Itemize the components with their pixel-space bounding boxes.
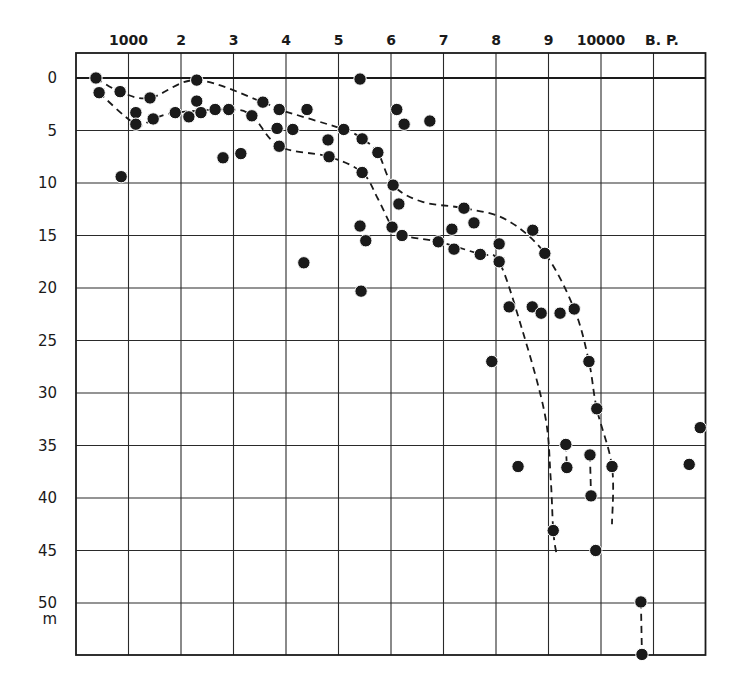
data-point-marker [183, 111, 195, 123]
y-tick-label: 10 [38, 174, 57, 192]
data-point-marker [93, 87, 105, 99]
data-point-marker [636, 648, 648, 660]
data-point-marker [246, 110, 258, 122]
data-point-marker [458, 202, 470, 214]
depth-age-chart: 10002345678910000 B. P. 0510152025303540… [0, 0, 733, 677]
data-point-marker [147, 113, 159, 125]
data-point-marker [391, 103, 403, 115]
y-axis-tick-labels: 05101520253035404550 [38, 69, 57, 612]
data-point-marker [446, 223, 458, 235]
connector-3-curve [641, 602, 642, 655]
x-tick-label: 7 [439, 32, 449, 48]
data-point-marker [354, 73, 366, 85]
data-point-marker [554, 307, 566, 319]
data-point-marker [257, 96, 269, 108]
y-tick-label: 5 [47, 122, 57, 140]
data-point-marker [386, 221, 398, 233]
y-tick-label: 20 [38, 279, 57, 297]
data-point-marker [568, 303, 580, 315]
data-point-marker [560, 438, 572, 450]
data-point-marker [547, 524, 559, 536]
data-point-marker [512, 460, 524, 472]
data-point-marker [273, 103, 285, 115]
dashed-curves [96, 78, 642, 654]
data-point-marker [273, 140, 285, 152]
x-tick-label: 9 [544, 32, 554, 48]
data-point-marker [169, 106, 181, 118]
data-point-marker [195, 106, 207, 118]
y-tick-label: 35 [38, 437, 57, 455]
data-point-marker [493, 256, 505, 268]
data-point-marker [287, 123, 299, 135]
y-tick-label: 0 [47, 69, 57, 87]
y-tick-label: 30 [38, 384, 57, 402]
vertical-gridlines [129, 53, 654, 655]
data-point-marker [424, 115, 436, 127]
data-point-marker [590, 544, 602, 556]
y-tick-label: 40 [38, 489, 57, 507]
data-point-marker [322, 134, 334, 146]
x-tick-label: 1000 [109, 32, 148, 48]
data-point-marker [468, 217, 480, 229]
x-axis-unit-label: B. P. [645, 32, 679, 48]
data-point-marker [356, 166, 368, 178]
data-point-marker [585, 490, 597, 502]
data-point-marker [635, 596, 647, 608]
data-point-marker [271, 122, 283, 134]
data-point-marker [448, 243, 460, 255]
data-point-marker [527, 224, 539, 236]
data-point-marker [360, 235, 372, 247]
x-tick-label: 4 [281, 32, 291, 48]
data-point-marker [493, 238, 505, 250]
y-axis-unit-label: m [42, 610, 57, 628]
x-tick-label: 8 [491, 32, 501, 48]
data-point-marker [539, 247, 551, 259]
data-point-marker [355, 285, 367, 297]
data-point-marker [323, 151, 335, 163]
data-point-marker [387, 179, 399, 191]
x-tick-label: 3 [229, 32, 239, 48]
data-point-marker [144, 92, 156, 104]
data-point-marker [298, 257, 310, 269]
data-point-marker [338, 123, 350, 135]
y-tick-label: 15 [38, 227, 57, 245]
data-point-marker [583, 355, 595, 367]
data-point-marker [191, 74, 203, 86]
data-point-marker [393, 198, 405, 210]
data-point-marker [584, 449, 596, 461]
x-tick-label: 10000 [577, 32, 626, 48]
y-tick-label: 25 [38, 332, 57, 350]
data-point-marker [356, 133, 368, 145]
data-point-marker [130, 118, 142, 130]
data-point-marker [535, 307, 547, 319]
data-point-marker [432, 236, 444, 248]
data-point-marker [217, 152, 229, 164]
data-point-marker [474, 248, 486, 260]
data-point-marker [683, 458, 695, 470]
data-point-marker [396, 229, 408, 241]
data-point-marker [235, 147, 247, 159]
data-point-marker [301, 103, 313, 115]
data-point-marker [561, 461, 573, 473]
data-point-marker [694, 421, 706, 433]
data-point-marker [398, 118, 410, 130]
data-points [90, 72, 707, 661]
data-point-marker [486, 355, 498, 367]
x-tick-label: 2 [176, 32, 186, 48]
data-point-marker [354, 220, 366, 232]
x-tick-label: 5 [334, 32, 344, 48]
data-point-marker [209, 103, 221, 115]
x-tick-label: 6 [386, 32, 396, 48]
y-tick-label: 45 [38, 542, 57, 560]
data-point-marker [130, 106, 142, 118]
data-point-marker [90, 72, 102, 84]
data-point-marker [114, 85, 126, 97]
data-point-marker [591, 403, 603, 415]
data-point-marker [191, 95, 203, 107]
data-point-marker [503, 301, 515, 313]
data-point-marker [372, 146, 384, 158]
data-point-marker [115, 171, 127, 183]
x-axis-tick-labels: 10002345678910000 [109, 32, 626, 48]
data-point-marker [606, 460, 618, 472]
data-point-marker [223, 103, 235, 115]
